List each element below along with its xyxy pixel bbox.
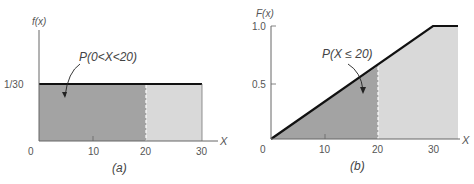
y-tick-label: 1/30	[4, 79, 24, 90]
shaded-region-0-20	[39, 84, 146, 141]
annotation-label: P(X ≤ 20)	[322, 47, 373, 61]
panel-b-uniform-cdf: F(x) 1.0 0.5 X 0 10 20 30 P(X ≤ 20) (b)	[252, 8, 470, 173]
y-axis-label: f(x)	[32, 16, 46, 27]
x-tick-label-10: 10	[319, 144, 331, 155]
panel-caption: (a)	[112, 161, 127, 175]
x-tick-label-30: 30	[196, 146, 208, 157]
panel-a-uniform-pdf: f(x) 1/30 X 0 10 20 30 P(0<X<20) (a)	[4, 16, 228, 175]
panel-caption: (b)	[350, 159, 365, 173]
x-tick-label-10: 10	[88, 146, 100, 157]
shaded-region-20-35	[378, 26, 458, 139]
x-axis-label: X	[219, 135, 228, 147]
x-tick-label-30: 30	[428, 144, 440, 155]
x-tick-label-20: 20	[372, 144, 384, 155]
x-axis-label: X	[461, 134, 470, 146]
x-tick-label-20: 20	[140, 146, 152, 157]
shaded-region-20-30	[146, 84, 202, 141]
y-axis-label: F(x)	[256, 8, 274, 19]
y-tick-label-1: 1.0	[252, 21, 266, 32]
figure: f(x) 1/30 X 0 10 20 30 P(0<X<20) (a) F(x…	[0, 0, 474, 184]
x-tick-label-0: 0	[260, 144, 266, 155]
x-tick-label-0: 0	[28, 146, 34, 157]
annotation-label: P(0<X<20)	[79, 50, 137, 64]
y-tick-label-05: 0.5	[252, 79, 266, 90]
